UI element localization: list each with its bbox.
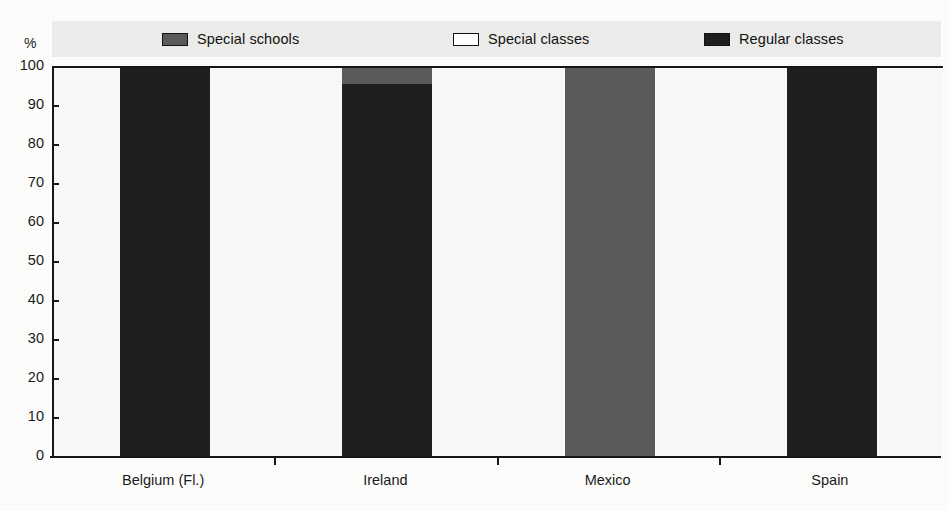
y-axis-tick-mark [52, 378, 59, 380]
y-axis-tick-label: 0 [2, 447, 44, 463]
legend-label-regular-classes: Regular classes [739, 30, 844, 48]
chart-legend: Special schools Special classes Regular … [52, 21, 941, 57]
y-axis-tick-mark [52, 105, 59, 107]
x-axis-line [50, 456, 941, 458]
y-axis-tick-mark [52, 300, 59, 302]
bar-segment [342, 84, 432, 458]
legend-swatch-special-schools [162, 33, 188, 46]
y-axis-tick-label: 50 [2, 252, 44, 268]
y-axis-tick-labels: 1009080706050403020100 [0, 66, 44, 456]
y-axis-tick-label: 80 [2, 135, 44, 151]
legend-swatch-regular-classes [704, 33, 730, 46]
x-axis-category-label: Ireland [363, 472, 407, 488]
y-axis-tick-mark [52, 144, 59, 146]
y-axis-tick-mark [52, 261, 59, 263]
x-axis-category-label: Mexico [585, 472, 631, 488]
bar-stack [342, 68, 432, 458]
bar-segment [342, 68, 432, 84]
legend-label-special-schools: Special schools [197, 30, 299, 48]
x-axis-category-labels: Belgium (Fl.)IrelandMexicoSpain [52, 472, 941, 498]
bar-stack [787, 68, 877, 458]
bar-stack [120, 68, 210, 458]
bar-stack [565, 68, 655, 458]
x-axis-tick-mark [274, 456, 276, 465]
bar-segment [787, 68, 877, 458]
chart-figure: Special schools Special classes Regular … [0, 0, 949, 510]
y-axis-tick-label: 10 [2, 408, 44, 424]
x-axis-tick-mark [719, 456, 721, 465]
legend-item-regular-classes: Regular classes [704, 30, 844, 48]
bar-segment [120, 68, 210, 458]
y-axis-tick-mark [52, 339, 59, 341]
y-axis-tick-label: 100 [2, 57, 44, 73]
y-axis-tick-mark [52, 417, 59, 419]
y-axis-tick-label: 70 [2, 174, 44, 190]
y-axis-tick-label: 20 [2, 369, 44, 385]
legend-item-special-classes: Special classes [453, 30, 589, 48]
x-axis-tick-mark [497, 456, 499, 465]
y-axis-tick-label: 60 [2, 213, 44, 229]
x-axis-category-label: Belgium (Fl.) [122, 472, 204, 488]
y-axis-tick-mark [52, 222, 59, 224]
y-axis-unit-label: % [24, 35, 36, 51]
y-axis-tick-label: 90 [2, 96, 44, 112]
legend-label-special-classes: Special classes [488, 30, 589, 48]
y-axis-tick-label: 30 [2, 330, 44, 346]
y-axis-tick-mark [52, 183, 59, 185]
legend-item-special-schools: Special schools [162, 30, 299, 48]
bars-container [54, 68, 943, 458]
x-axis-category-label: Spain [811, 472, 848, 488]
plot-area [52, 66, 943, 458]
y-axis-tick-label: 40 [2, 291, 44, 307]
legend-swatch-special-classes [453, 33, 479, 46]
bar-segment [565, 68, 655, 458]
